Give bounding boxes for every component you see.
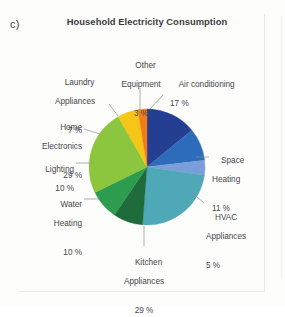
slice-label-kitchen-appliances-name2: Appliances (106, 277, 182, 287)
slice-label-water-heating-pct: 10 % (18, 248, 82, 258)
slice-label-laundry-appliances-name2: Appliances (42, 97, 108, 107)
slice-label-hvac-appliances-name: HVAC (215, 213, 237, 222)
slice-label-other-equipment-name: Other (135, 61, 155, 70)
slice-label-laundry-appliances-pct: 7 % (42, 126, 108, 136)
pie-slice-kitchen-appliances[interactable] (142, 167, 204, 225)
slice-label-space-heating-name: Space (221, 156, 244, 165)
slice-label-water-heating-name2: Heating (18, 219, 82, 229)
slice-label-space-heating-name2: Heating (212, 175, 244, 185)
slice-label-hvac-appliances-pct: 5 % (206, 261, 246, 271)
slice-label-laundry-appliances-name: Laundry (65, 78, 95, 87)
slice-label-kitchen-appliances-name: Kitchen (135, 258, 162, 267)
slice-label-other-equipment-name2: Equipment (110, 80, 172, 90)
slice-label-kitchen-appliances-pct: 29 % (106, 306, 182, 316)
slice-label-hvac-appliances-name2: Appliances (206, 232, 246, 242)
slice-label-hvac-appliances: HVAC Appliances 5 % (206, 203, 246, 289)
slice-label-other-equipment-pct: 3 % (110, 109, 172, 119)
slice-label-air-conditioning-name: Air conditioning (179, 80, 235, 89)
slice-label-other-equipment: Other Equipment 3 % (110, 51, 172, 137)
slice-label-home-electronics-pct: 29 % (8, 171, 82, 181)
slice-label-air-conditioning: Air conditioning 17 % (170, 70, 235, 128)
slice-label-laundry-appliances: Laundry Appliances 7 % (42, 68, 108, 154)
slice-label-air-conditioning-pct: 17 % (170, 99, 235, 109)
slice-label-kitchen-appliances: Kitchen Appliances 29 % (106, 248, 182, 317)
